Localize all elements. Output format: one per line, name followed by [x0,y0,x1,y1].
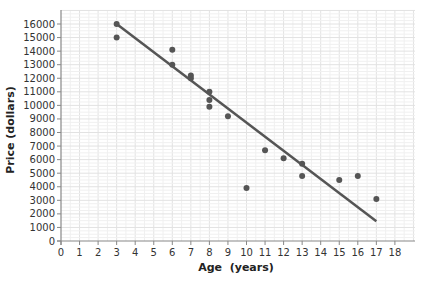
x-tick-label: 13 [296,247,309,258]
y-tick-label: 5000 [30,168,55,179]
y-tick-label: 14000 [23,46,55,57]
data-point [114,35,120,41]
y-tick-label: 10000 [23,100,55,111]
x-tick-label: 12 [277,247,290,258]
x-axis-title: Age (years) [198,261,274,274]
data-point [206,104,212,110]
data-point [281,155,287,161]
y-tick-label: 7000 [30,141,55,152]
data-point [373,196,379,202]
data-point [336,177,342,183]
x-tick-label: 3 [113,247,119,258]
y-axis-ticks: 0100020003000400050006000700080009000100… [23,19,61,247]
y-tick-label: 1000 [30,222,55,233]
y-axis-title: Price (dollars) [4,86,17,174]
x-tick-label: 6 [169,247,175,258]
data-point [114,21,120,27]
data-point [244,185,250,191]
x-tick-label: 2 [95,247,101,258]
x-tick-label: 4 [132,247,138,258]
x-tick-label: 17 [370,247,383,258]
y-tick-label: 4000 [30,181,55,192]
data-point [225,113,231,119]
data-point [299,161,305,167]
data-point [169,47,175,53]
data-point [206,97,212,103]
data-point [355,173,361,179]
y-tick-label: 9000 [30,113,55,124]
grid [61,10,415,241]
x-axis-ticks: 0123456789101112131415161718 [58,241,401,258]
y-tick-label: 0 [49,236,55,247]
y-tick-label: 11000 [23,86,55,97]
x-tick-label: 7 [188,247,194,258]
y-tick-label: 15000 [23,32,55,43]
x-tick-label: 18 [389,247,402,258]
y-tick-label: 6000 [30,154,55,165]
data-point [169,62,175,68]
x-tick-label: 0 [58,247,64,258]
x-tick-label: 1 [76,247,82,258]
y-tick-label: 2000 [30,208,55,219]
x-tick-label: 9 [225,247,231,258]
data-point [262,147,268,153]
x-tick-label: 16 [351,247,364,258]
x-tick-label: 5 [151,247,157,258]
data-point [299,173,305,179]
x-tick-label: 15 [333,247,346,258]
y-tick-label: 8000 [30,127,55,138]
y-tick-label: 16000 [23,19,55,30]
data-point [206,89,212,95]
y-tick-label: 3000 [30,195,55,206]
x-tick-label: 11 [259,247,272,258]
scatter-chart: 0123456789101112131415161718 01000200030… [0,0,427,284]
data-point [188,75,194,81]
y-tick-label: 13000 [23,59,55,70]
y-tick-label: 12000 [23,73,55,84]
x-tick-label: 8 [206,247,212,258]
x-tick-label: 10 [240,247,253,258]
x-tick-label: 14 [314,247,327,258]
